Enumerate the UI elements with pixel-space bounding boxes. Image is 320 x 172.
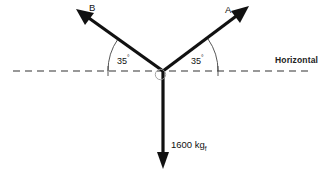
force-diagram-canvas: A B 35° 35° Horizontal 1600 kgf — [0, 0, 320, 172]
degree-symbol-left: ° — [127, 54, 130, 61]
angle-label-left: 35° — [117, 55, 130, 66]
weight-value-text: 1600 kg — [171, 139, 205, 150]
force-diagram-graphics — [0, 0, 320, 172]
degree-symbol-right: ° — [201, 54, 204, 61]
vector-b-label: B — [89, 3, 95, 13]
angle-label-right: 35° — [191, 55, 204, 66]
horizontal-line-label: Horizontal — [275, 56, 318, 65]
angle-label-right-value: 35 — [191, 56, 201, 66]
vector-a-label: A — [225, 5, 231, 15]
vector-weight-arrowhead — [157, 152, 169, 169]
weight-unit-subscript: f — [205, 145, 207, 152]
angle-arc-right — [208, 39, 218, 71]
weight-vector-label: 1600 kgf — [171, 140, 207, 152]
vector-a-arrowhead — [231, 6, 249, 23]
angle-label-left-value: 35 — [117, 56, 127, 66]
